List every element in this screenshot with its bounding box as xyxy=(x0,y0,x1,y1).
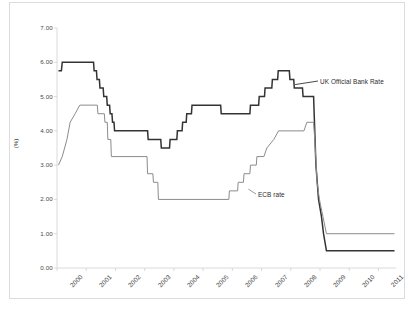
series-annotation-ecb-rate: ECB rate xyxy=(258,191,285,198)
axis-lines xyxy=(57,28,396,268)
chart-figure: (%) 0.001.002.003.004.005.006.007.00 200… xyxy=(0,0,418,321)
axis-tick-marks xyxy=(54,28,378,271)
annotation-leader-uk-official-bank-rate xyxy=(295,81,318,85)
chart-plot-area xyxy=(0,0,418,321)
series-line-uk-official-bank-rate xyxy=(58,62,394,251)
annotation-leader-ecb-rate xyxy=(248,189,256,194)
series-line-ecb-rate xyxy=(58,105,394,234)
series-annotation-uk-official-bank-rate: UK Official Bank Rate xyxy=(320,78,384,85)
series-lines xyxy=(58,62,394,251)
